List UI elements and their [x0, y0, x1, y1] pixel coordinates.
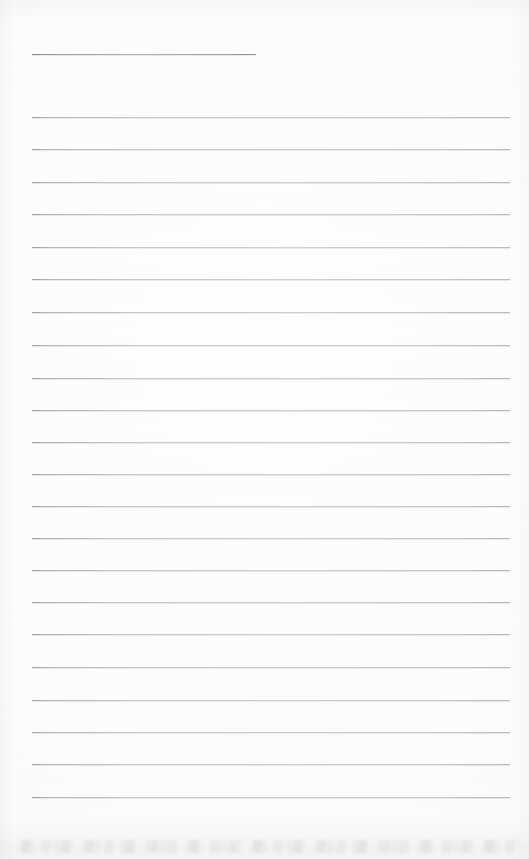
ruled-line — [32, 764, 510, 765]
ruled-line — [32, 149, 510, 150]
ruled-line — [32, 247, 510, 248]
ruled-line — [32, 182, 510, 183]
ruled-line — [32, 345, 510, 346]
ruled-line — [32, 214, 510, 215]
ruled-line — [32, 667, 510, 668]
ruled-line — [32, 410, 510, 411]
ruled-line — [32, 732, 510, 733]
ruled-line — [32, 797, 510, 798]
ruled-line — [32, 538, 510, 539]
title-rule-line — [32, 54, 256, 55]
scanned-page — [0, 0, 529, 859]
ruled-line — [32, 570, 510, 571]
ruled-line — [32, 442, 510, 443]
ruled-line — [32, 474, 510, 475]
ruled-line — [32, 117, 510, 118]
ruled-line — [32, 312, 510, 313]
ruled-lines-layer — [0, 0, 529, 859]
ruled-line — [32, 634, 510, 635]
ruled-line — [32, 279, 510, 280]
ruled-line — [32, 378, 510, 379]
ruled-line — [32, 602, 510, 603]
ruled-line — [32, 506, 510, 507]
ruled-line — [32, 700, 510, 701]
